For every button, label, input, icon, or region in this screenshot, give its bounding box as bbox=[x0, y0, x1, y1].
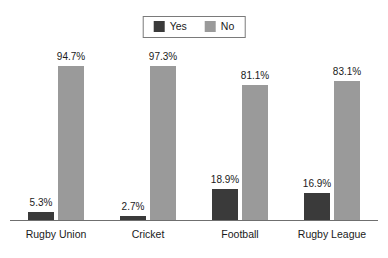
bar-value-label: 81.1% bbox=[241, 71, 269, 81]
bar-value-label: 83.1% bbox=[333, 67, 361, 77]
bar-group: 16.9% 83.1% bbox=[286, 52, 378, 221]
bar-value-label: 18.9% bbox=[211, 175, 239, 185]
bar-value-label: 94.7% bbox=[57, 52, 85, 62]
bar-slot: 94.7% bbox=[58, 52, 84, 221]
bar-no bbox=[150, 66, 176, 221]
bar-slot: 18.9% bbox=[212, 52, 238, 221]
bar-groups: 5.3% 94.7% 2.7% 97.3% bbox=[10, 52, 378, 221]
bar-slot: 81.1% bbox=[242, 52, 268, 221]
bar-group: 2.7% 97.3% bbox=[102, 52, 194, 221]
legend-entry-no: No bbox=[205, 21, 234, 32]
square-swatch-icon bbox=[154, 21, 165, 32]
chart-legend: Yes No bbox=[143, 16, 246, 38]
x-axis-tick-label: Cricket bbox=[102, 224, 194, 244]
bar-slot: 97.3% bbox=[150, 52, 176, 221]
legend-label-yes: Yes bbox=[170, 21, 187, 32]
plot-area: 5.3% 94.7% 2.7% 97.3% bbox=[0, 52, 388, 258]
bar-slot: 2.7% bbox=[120, 52, 146, 221]
bar-no bbox=[334, 81, 360, 221]
bar-slot: 16.9% bbox=[304, 52, 330, 221]
bar-group: 18.9% 81.1% bbox=[194, 52, 286, 221]
legend-entry-yes: Yes bbox=[154, 21, 187, 32]
bar-slot: 5.3% bbox=[28, 52, 54, 221]
x-axis-tick-label: Football bbox=[194, 224, 286, 244]
bar-no bbox=[58, 66, 84, 221]
bar-value-label: 2.7% bbox=[122, 202, 145, 212]
bar-group: 5.3% 94.7% bbox=[10, 52, 102, 221]
x-axis-category-labels: Rugby Union Cricket Football Rugby Leagu… bbox=[10, 224, 378, 244]
bar-no bbox=[242, 85, 268, 221]
x-axis-baseline bbox=[10, 220, 378, 221]
square-swatch-icon bbox=[205, 21, 216, 32]
bar-yes bbox=[304, 193, 330, 221]
legend-label-no: No bbox=[221, 21, 234, 32]
bar-yes bbox=[212, 189, 238, 221]
x-axis-tick-label: Rugby League bbox=[286, 224, 378, 244]
bar-value-label: 16.9% bbox=[303, 179, 331, 189]
bar-value-label: 5.3% bbox=[30, 198, 53, 208]
x-axis-tick-label: Rugby Union bbox=[10, 224, 102, 244]
bar-slot: 83.1% bbox=[334, 52, 360, 221]
grouped-bar-chart: Yes No 5.3% 94.7% 2.7% bbox=[0, 0, 388, 258]
bar-value-label: 97.3% bbox=[149, 52, 177, 62]
